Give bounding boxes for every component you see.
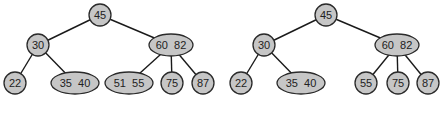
node-label: 87: [197, 77, 209, 89]
tree-node-before-n5155: 51 55: [105, 72, 153, 94]
node-label: 35 40: [286, 77, 317, 89]
tree-node-after-m22: 22: [230, 72, 252, 94]
node-label: 45: [320, 9, 332, 21]
tree-node-before-n45: 45: [89, 4, 111, 26]
tree-node-after-m55: 55: [355, 72, 377, 94]
tree-node-before-n87: 87: [192, 72, 214, 94]
node-label: 75: [166, 77, 178, 89]
node-label: 75: [392, 77, 404, 89]
node-label: 30: [258, 39, 270, 51]
node-label: 87: [422, 77, 434, 89]
tree-node-after-m30: 30: [253, 34, 275, 56]
tree-node-before-n6082: 60 82: [149, 34, 193, 56]
tree-node-before-n3540: 35 40: [51, 72, 99, 94]
tree-node-after-m3540: 35 40: [277, 72, 325, 94]
node-label: 22: [9, 77, 21, 89]
nodes: 453060 822235 4051 557587453060 822235 4…: [4, 4, 439, 94]
tree-node-after-m75: 75: [387, 72, 409, 94]
node-label: 55: [360, 77, 372, 89]
node-label: 35 40: [60, 77, 91, 89]
two-tree-diagram: 453060 822235 4051 557587453060 822235 4…: [0, 0, 445, 115]
tree-node-after-m45: 45: [315, 4, 337, 26]
node-label: 22: [235, 77, 247, 89]
node-label: 51 55: [114, 77, 145, 89]
tree-node-before-n75: 75: [161, 72, 183, 94]
tree-node-after-m6082: 60 82: [375, 34, 419, 56]
node-label: 60 82: [156, 39, 187, 51]
tree-node-before-n30: 30: [27, 34, 49, 56]
tree-node-after-m87: 87: [417, 72, 439, 94]
tree-node-before-n22: 22: [4, 72, 26, 94]
node-label: 45: [94, 9, 106, 21]
tree-canvas: 453060 822235 4051 557587453060 822235 4…: [0, 0, 445, 115]
node-label: 30: [32, 39, 44, 51]
node-label: 60 82: [382, 39, 413, 51]
